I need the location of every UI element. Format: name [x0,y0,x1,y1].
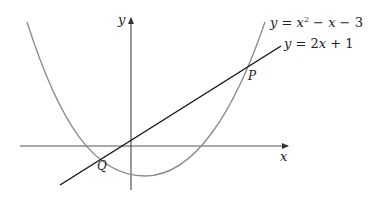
line-curve [60,46,281,185]
graph-diagram: y x P Q y = x2 − x − 3 y = 2x + 1 [0,0,375,198]
line-equation-label: y = 2x + 1 [283,36,354,51]
parabola-curve [27,22,265,176]
x-axis-label: x [280,149,288,164]
point-q-label: Q [97,159,107,173]
point-p-label: P [247,69,257,83]
parabola-equation-label: y = x2 − x − 3 [269,15,363,30]
y-axis-label: y [117,12,126,27]
